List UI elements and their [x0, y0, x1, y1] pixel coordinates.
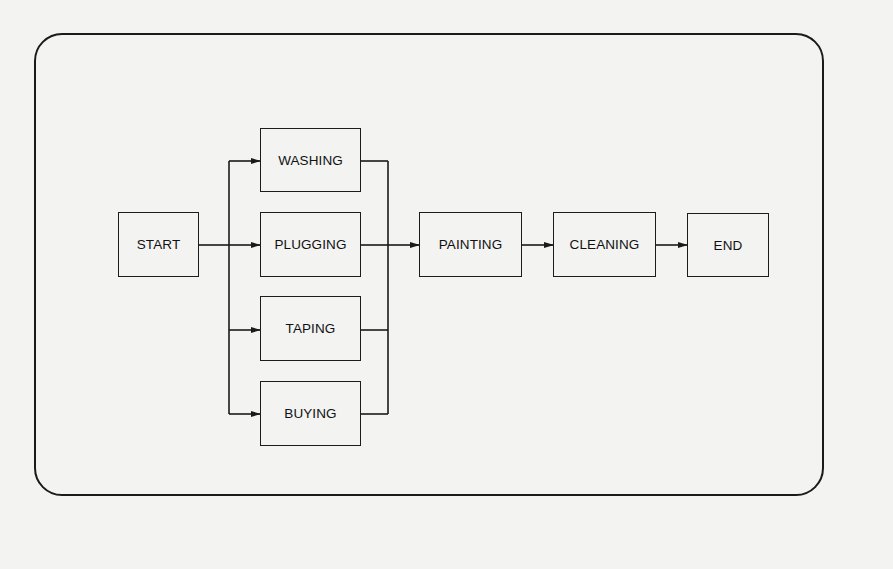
node-buying-label: BUYING — [284, 406, 336, 421]
node-taping-label: TAPING — [286, 321, 336, 336]
node-start-label: START — [137, 237, 181, 252]
node-washing: WASHING — [260, 128, 361, 192]
node-end-label: END — [714, 238, 743, 253]
node-buying: BUYING — [260, 381, 361, 446]
node-plugging-label: PLUGGING — [274, 237, 346, 252]
node-end: END — [687, 213, 769, 277]
node-taping: TAPING — [260, 296, 361, 361]
node-painting-label: PAINTING — [439, 237, 503, 252]
node-start: START — [118, 212, 199, 277]
connector-lines — [0, 0, 893, 569]
node-painting: PAINTING — [419, 212, 522, 277]
node-washing-label: WASHING — [278, 153, 343, 168]
node-cleaning-label: CLEANING — [570, 237, 640, 252]
node-cleaning: CLEANING — [553, 212, 656, 277]
node-plugging: PLUGGING — [260, 212, 361, 277]
